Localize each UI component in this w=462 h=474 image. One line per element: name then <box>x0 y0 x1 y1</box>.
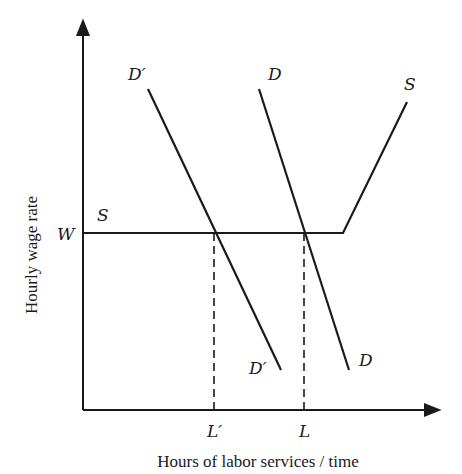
labor-market-diagram: W S S D′ D D′ D L′ L Hours of labor serv… <box>0 0 462 474</box>
supply-label-left: S <box>97 205 109 225</box>
x-axis-title: Hours of labor services / time <box>157 452 359 471</box>
quantity-label-l: L <box>298 421 310 441</box>
demand-prime-label-top: D′ <box>127 64 146 84</box>
demand-label-top: D <box>267 64 282 84</box>
demand-prime-label-bottom: D′ <box>248 358 267 378</box>
quantity-label-l-prime: L′ <box>206 421 222 441</box>
demand-label-bottom: D <box>358 350 373 370</box>
supply-label-right: S <box>404 74 416 94</box>
y-axis-title: Hourly wage rate <box>22 196 41 314</box>
supply-curve <box>83 102 407 233</box>
wage-label: W <box>57 224 76 244</box>
